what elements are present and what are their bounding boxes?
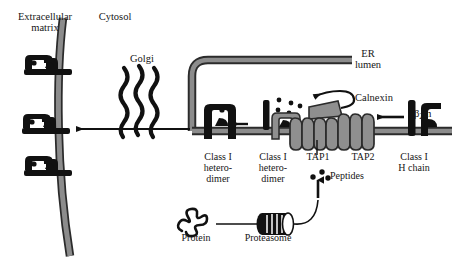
label-class-i-heterodimer-er: Class I hetero- dimer xyxy=(245,152,301,184)
label-class-i-heterodimer-surface: Class I hetero- dimer xyxy=(190,152,246,184)
label-extracellular-matrix: Extracellular matrix xyxy=(2,11,88,34)
label-er-lumen: ER lumen xyxy=(340,48,396,71)
beta2m-m: m xyxy=(423,108,431,119)
label-golgi: Golgi xyxy=(114,53,170,64)
plasma-membrane xyxy=(58,18,70,256)
golgi-apparatus xyxy=(121,66,158,137)
diagram-canvas xyxy=(0,0,452,259)
label-beta2m: β2m xyxy=(414,108,450,121)
label-peptides: Peptides xyxy=(330,171,394,182)
label-cytosol: Cytosol xyxy=(86,11,144,22)
class-i-bar xyxy=(263,100,270,130)
surface-mhc-complex-1 xyxy=(24,55,72,75)
cytosol-peptide-dots xyxy=(310,169,330,180)
tap-transporter xyxy=(290,114,374,150)
label-tap1: TAP1 xyxy=(300,152,336,163)
proteasome xyxy=(216,200,318,235)
mhc-class-i-pathway-figure: Extracellular matrix Cytosol Golgi ER lu… xyxy=(0,0,452,259)
label-protein: Protein xyxy=(168,233,224,244)
surface-mhc-complex-3 xyxy=(24,156,72,176)
label-tap2: TAP2 xyxy=(345,152,381,163)
label-proteasome: Proteasome xyxy=(228,233,308,244)
label-calnexin: Calnexin xyxy=(340,92,408,103)
